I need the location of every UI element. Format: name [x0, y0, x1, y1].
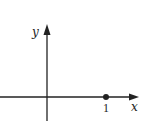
x-axis-label: x	[131, 100, 138, 114]
y-axis-label: y	[31, 25, 39, 39]
coordinate-diagram: y x 1	[0, 0, 146, 124]
point-marker	[103, 94, 109, 100]
point-label: 1	[103, 101, 109, 115]
y-axis-arrow-icon	[44, 24, 51, 35]
